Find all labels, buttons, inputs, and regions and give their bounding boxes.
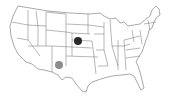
us-map xyxy=(0,0,172,105)
state-outlines xyxy=(10,6,160,92)
marker-nebraska[interactable] xyxy=(74,37,82,45)
marker-new-mexico[interactable] xyxy=(55,61,63,69)
us-outline xyxy=(10,6,160,92)
